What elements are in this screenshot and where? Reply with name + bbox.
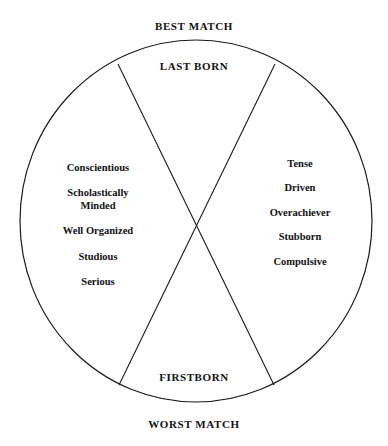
trait-item: Tense — [244, 158, 356, 170]
birth-order-compatibility-diagram: BEST MATCH LAST BORN Conscientious Schol… — [0, 0, 388, 446]
right-segment-trait-list: Tense Driven Overachiever Stubborn Compu… — [244, 158, 356, 280]
trait-line-1: Tense — [287, 158, 312, 169]
segment-title-last-born: LAST BORN — [0, 60, 388, 73]
left-segment-trait-list: Conscientious Scholastically Minded Well… — [36, 162, 160, 301]
trait-line-1: Driven — [285, 182, 316, 193]
trait-line-1: Overachiever — [270, 207, 331, 218]
trait-line-1: Stubborn — [279, 231, 322, 242]
trait-item: Driven — [244, 182, 356, 194]
trait-item: Conscientious — [36, 162, 160, 174]
trait-line-1: Well Organized — [63, 225, 133, 236]
trait-item: Scholastically Minded — [36, 187, 160, 212]
trait-item: Compulsive — [244, 256, 356, 268]
worst-match-caption: WORST MATCH — [0, 418, 388, 431]
trait-item: Overachiever — [244, 207, 356, 219]
segment-title-firstborn: FIRSTBORN — [0, 371, 388, 384]
trait-item: Stubborn — [244, 231, 356, 243]
trait-item: Studious — [36, 251, 160, 263]
trait-line-1: Conscientious — [67, 162, 129, 173]
trait-line-1: Scholastically — [67, 187, 128, 198]
trait-item: Well Organized — [36, 225, 160, 237]
trait-item: Serious — [36, 276, 160, 288]
trait-line-1: Compulsive — [273, 256, 326, 267]
trait-line-1: Serious — [81, 276, 114, 287]
trait-line-1: Studious — [78, 251, 117, 262]
best-match-caption: BEST MATCH — [0, 20, 388, 33]
trait-line-2: Minded — [36, 200, 160, 212]
